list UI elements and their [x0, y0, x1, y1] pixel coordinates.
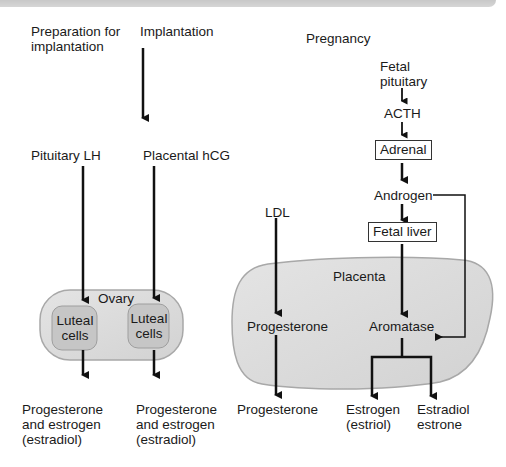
label-progesterone-inner: Progesterone — [247, 319, 328, 334]
luteal-cells-left: Luteal cells — [56, 313, 94, 343]
label-acth: ACTH — [384, 106, 421, 121]
heading-pregnancy: Pregnancy — [306, 31, 371, 46]
output-implant: Progesterone and estrogen (estradiol) — [136, 402, 217, 447]
output-estrogen: Estrogen (estriol) — [346, 402, 400, 432]
box-adrenal: Adrenal — [375, 140, 432, 160]
heading-preparation: Preparation for implantation — [31, 24, 120, 54]
output-prep: Progesterone and estrogen (estradiol) — [22, 402, 103, 447]
label-placenta: Placenta — [333, 269, 386, 284]
box-fetal-liver: Fetal liver — [368, 222, 437, 242]
label-pituitary-lh: Pituitary LH — [31, 148, 101, 163]
label-androgen: Androgen — [374, 188, 433, 203]
label-ldl: LDL — [265, 205, 290, 220]
luteal-cells-right: Luteal cells — [129, 311, 169, 341]
heading-implantation: Implantation — [140, 24, 214, 39]
label-fetal-pituitary: Fetal pituitary — [380, 59, 427, 89]
output-progesterone: Progesterone — [237, 402, 318, 417]
label-placental-hcg: Placental hCG — [143, 148, 230, 163]
output-estradiol: Estradiol estrone — [417, 402, 470, 432]
label-ovary: Ovary — [98, 291, 134, 306]
label-aromatase: Aromatase — [369, 319, 434, 334]
